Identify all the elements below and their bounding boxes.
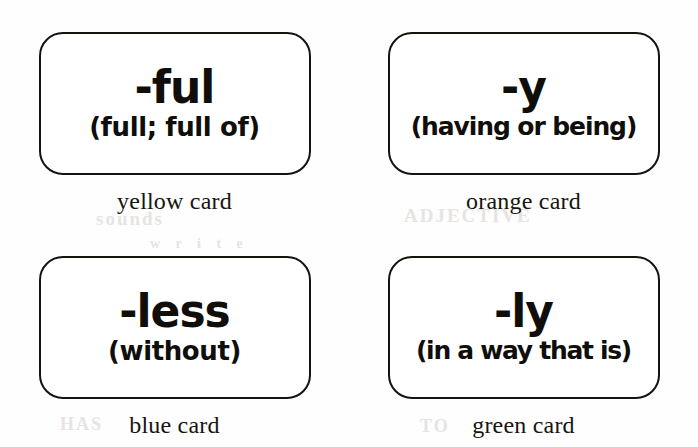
suffix-headword: -ful — [135, 65, 215, 109]
suffix-card-ly[interactable]: -ly (in a way that is) — [388, 256, 660, 399]
card-cell-ly: -ly (in a way that is) green card — [349, 224, 698, 447]
suffix-headword: -ly — [494, 289, 553, 333]
card-color-caption: orange card — [466, 189, 581, 213]
suffix-gloss: (full; full of) — [89, 114, 260, 142]
suffix-card-less[interactable]: -less (without) — [39, 256, 311, 399]
card-color-caption: blue card — [129, 413, 219, 437]
card-color-caption: green card — [472, 413, 575, 437]
suffix-card-ful[interactable]: -ful (full; full of) — [39, 32, 311, 175]
card-color-caption: yellow card — [117, 189, 232, 213]
card-grid: -ful (full; full of) yellow card -y (hav… — [0, 0, 698, 447]
suffix-headword: -y — [501, 65, 546, 109]
suffix-headword: -less — [119, 289, 230, 333]
card-cell-ful: -ful (full; full of) yellow card — [0, 0, 349, 223]
card-cell-less: -less (without) blue card — [0, 224, 349, 447]
suffix-gloss: (in a way that is) — [416, 338, 631, 365]
suffix-gloss: (having or being) — [411, 114, 636, 141]
suffix-gloss: (without) — [108, 338, 241, 366]
suffix-card-y[interactable]: -y (having or being) — [388, 32, 660, 175]
card-cell-y: -y (having or being) orange card — [349, 0, 698, 223]
suffix-card-sheet: sounds ADJECTIVE HAS TO w r i t e -ful (… — [0, 0, 698, 447]
